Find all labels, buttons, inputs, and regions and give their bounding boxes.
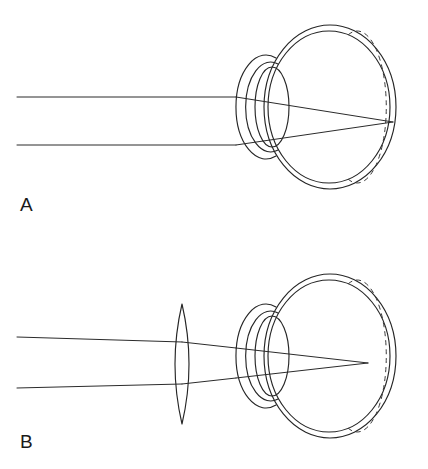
eye-refraction-figure: A B — [0, 0, 428, 469]
panel-a-label: A — [20, 194, 33, 215]
panel-b-label: B — [20, 431, 33, 452]
figure-background — [0, 0, 428, 469]
